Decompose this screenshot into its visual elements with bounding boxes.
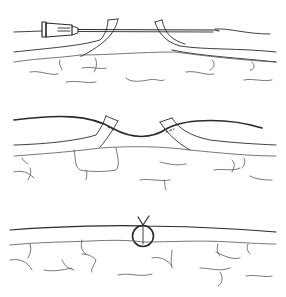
stage-1-needle-insertion (14, 19, 276, 83)
knot-icon (138, 216, 149, 225)
stage-2-suture-through (14, 116, 276, 190)
stage-3-suture-tied (10, 216, 276, 286)
needle-shaft (78, 30, 219, 32)
suture-thread (14, 116, 262, 136)
suture-illustration (0, 0, 286, 297)
needle-hub-icon (42, 22, 78, 37)
